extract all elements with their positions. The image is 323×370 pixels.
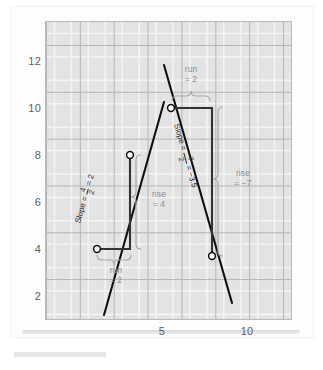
y-axis-tick-12: 12 <box>15 55 41 67</box>
slope-label-negative-suffix: = −3.5 <box>183 162 199 188</box>
slope-label-positive-suffix: = 2 <box>83 173 95 189</box>
y-axis-tick-8: 8 <box>15 149 41 161</box>
annotation-rise-left-line1: rise <box>152 189 166 199</box>
x-axis-tick-10: 10 <box>233 325 261 337</box>
y-axis-tick-10: 10 <box>15 102 41 114</box>
annotation-run-right-line2: = 2 <box>185 74 197 84</box>
caption-placeholder-strip <box>14 352 106 357</box>
annotation-rise-left-line2: = 4 <box>153 199 165 209</box>
y-axis-tick-6: 6 <box>15 196 41 208</box>
x-axis-tick-5: 5 <box>148 325 176 337</box>
annotation-run-right: run = 2 <box>171 64 211 84</box>
y-axis-tick-4: 4 <box>15 243 41 255</box>
figure-root: 12 10 8 6 4 2 5 10 run = 2 rise = 4 run … <box>0 0 323 370</box>
annotation-run-left: run = 2 <box>96 265 136 285</box>
annotation-rise-left: rise = 4 <box>143 189 175 209</box>
annotation-rise-right-line1: rise <box>236 168 250 178</box>
annotation-rise-right-line2: = −7 <box>234 178 251 188</box>
annotation-run-left-line1: run <box>110 265 123 275</box>
annotation-run-left-line2: = 2 <box>110 275 122 285</box>
annotation-rise-right: rise = −7 <box>225 168 261 188</box>
y-axis-tick-2: 2 <box>15 290 41 302</box>
annotation-run-right-line1: run <box>185 64 198 74</box>
